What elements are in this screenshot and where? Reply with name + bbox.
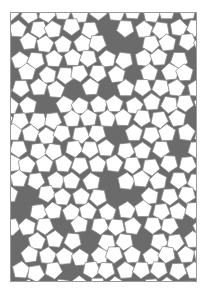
tiling-canvas [11, 13, 197, 282]
pentagon-tile [196, 186, 197, 203]
pentagon-tile [179, 281, 196, 282]
penrose-tiling-figure [10, 12, 197, 282]
